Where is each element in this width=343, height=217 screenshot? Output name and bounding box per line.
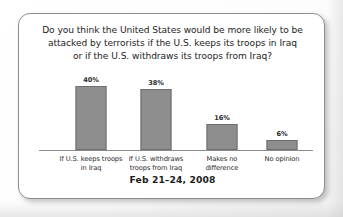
category-label-line: in Iraq [55, 164, 127, 173]
category-label-line: No opinion [246, 155, 318, 164]
bar [76, 86, 107, 150]
bar-value-label: 40% [55, 76, 127, 84]
bar-slot: 40% [55, 78, 127, 150]
bar-slot: 6% [246, 78, 318, 150]
bar-slot: 38% [120, 78, 192, 150]
bar-chart-plot: 40%38%16%6% [27, 78, 318, 156]
bar-value-label: 38% [120, 79, 192, 87]
survey-date-label: Feb 21–24, 2008 [19, 174, 326, 185]
category-label: No opinion [246, 155, 318, 164]
bar-value-label: 6% [246, 130, 318, 138]
category-label-line: If U.S. withdraws [120, 155, 192, 164]
bar [207, 124, 238, 150]
scan-shading-bottom [0, 201, 343, 217]
question-line-2: attacked by terrorists if the U.S. keeps… [29, 37, 316, 50]
poll-chart-page: Do you think the United States would be … [0, 0, 343, 217]
question-line-3: or if the U.S. withdraws its troops from… [29, 50, 316, 63]
scan-shading-right [327, 0, 343, 217]
category-label-line: If U.S. keeps troops [55, 155, 127, 164]
bar [267, 140, 298, 150]
axis-baseline [39, 150, 313, 151]
bar [141, 89, 172, 150]
category-label: If U.S. withdrawstroops from Iraq [120, 155, 192, 174]
category-label: If U.S. keeps troopsin Iraq [55, 155, 127, 174]
question-title: Do you think the United States would be … [29, 24, 316, 64]
poll-result-card: Do you think the United States would be … [18, 13, 325, 199]
question-line-1: Do you think the United States would be … [29, 24, 316, 37]
category-label-line: difference [186, 164, 258, 173]
category-label-line: troops from Iraq [120, 164, 192, 173]
